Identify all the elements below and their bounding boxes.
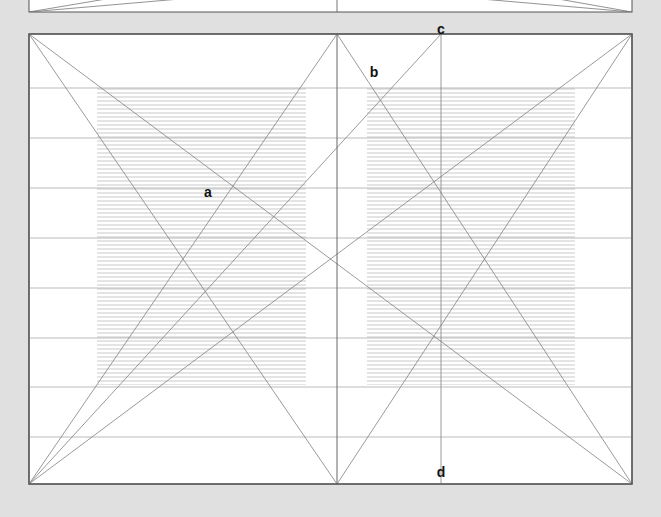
annotation-label-c: c bbox=[437, 22, 445, 36]
bar-3 bbox=[510, 88, 575, 385]
upper-panel-frame bbox=[29, 0, 632, 12]
upper-chart-partial bbox=[29, 0, 632, 12]
chart-canvas bbox=[0, 0, 661, 517]
main-chart-panel bbox=[29, 34, 632, 484]
annotation-label-b: b bbox=[370, 65, 379, 79]
screenshot-stage: a b c d bbox=[0, 0, 661, 517]
annotation-label-a: a bbox=[204, 185, 212, 199]
bar-1 bbox=[97, 88, 306, 385]
annotation-label-d: d bbox=[437, 465, 446, 479]
bar-2 bbox=[367, 88, 510, 385]
